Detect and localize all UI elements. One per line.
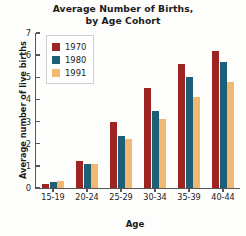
- bar-1991-20-24[interactable]: [91, 164, 98, 188]
- x-axis-tick-label: 35-39: [172, 192, 206, 202]
- y-axis-tick-label: 2: [26, 139, 31, 149]
- x-axis-line: [35, 188, 240, 189]
- x-axis-tick-label: 25-29: [104, 192, 138, 202]
- x-axis-tick-label: 15-19: [36, 192, 70, 202]
- y-axis-tick-label: 1: [26, 161, 31, 171]
- chart-legend: 197019801991: [46, 35, 94, 84]
- bar-group: 30-34: [138, 33, 172, 188]
- y-axis-tick: 5: [26, 72, 36, 82]
- y-axis-tick-label: 6: [26, 50, 31, 60]
- y-axis-tick: 2: [26, 139, 36, 149]
- bar-group: 40-44: [206, 33, 240, 188]
- x-axis-tick-mark: [52, 188, 53, 192]
- legend-item-label: 1980: [65, 56, 86, 64]
- bar-1970-30-34[interactable]: [144, 88, 151, 188]
- legend-item-1970[interactable]: 1970: [52, 40, 86, 53]
- x-axis-title: Age: [30, 219, 240, 229]
- legend-swatch-icon: [52, 69, 60, 77]
- bar-1991-40-44[interactable]: [227, 82, 234, 188]
- chart-title-line-1: Average Number of Births,: [0, 3, 246, 15]
- y-axis-tick-label: 0: [26, 183, 31, 193]
- bar-group: 25-29: [104, 33, 138, 188]
- x-axis-tick-label: 40-44: [206, 192, 240, 202]
- y-axis-tick-label: 4: [26, 94, 31, 104]
- x-axis-tick-label: 20-24: [70, 192, 104, 202]
- legend-item-label: 1970: [65, 43, 86, 51]
- bar-1980-35-39[interactable]: [186, 77, 193, 188]
- bar-group: 35-39: [172, 33, 206, 188]
- bar-1970-20-24[interactable]: [76, 161, 83, 188]
- x-axis-tick-mark: [188, 188, 189, 192]
- x-axis-tick-mark: [222, 188, 223, 192]
- bar-chart: Average Number of Births, by Age Cohort …: [0, 0, 246, 236]
- bar-1980-40-44[interactable]: [220, 62, 227, 188]
- bar-1970-15-19[interactable]: [42, 184, 49, 188]
- bar-1991-35-39[interactable]: [193, 97, 200, 188]
- legend-swatch-icon: [52, 43, 60, 51]
- bar-1991-15-19[interactable]: [57, 181, 64, 188]
- x-axis-tick-mark: [154, 188, 155, 192]
- legend-item-1991[interactable]: 1991: [52, 66, 86, 79]
- chart-title-line-2: by Age Cohort: [0, 15, 246, 27]
- y-axis-tick: 4: [26, 94, 36, 104]
- y-axis-tick: 7: [26, 28, 36, 38]
- x-axis-tick-mark: [120, 188, 121, 192]
- y-axis-tick: 6: [26, 50, 36, 60]
- y-axis-tick: 0: [26, 183, 36, 193]
- bar-1991-30-34[interactable]: [159, 119, 166, 188]
- bar-1980-20-24[interactable]: [84, 164, 91, 188]
- bar-1970-40-44[interactable]: [212, 51, 219, 188]
- bar-1980-25-29[interactable]: [118, 136, 125, 188]
- bar-1970-35-39[interactable]: [178, 64, 185, 188]
- bar-1991-25-29[interactable]: [125, 139, 132, 188]
- x-axis-tick-label: 30-34: [138, 192, 172, 202]
- legend-swatch-icon: [52, 56, 60, 64]
- x-axis-tick-mark: [86, 188, 87, 192]
- bar-1980-30-34[interactable]: [152, 111, 159, 189]
- y-axis-tick: 1: [26, 161, 36, 171]
- legend-item-1980[interactable]: 1980: [52, 53, 86, 66]
- y-axis-tick-label: 3: [26, 117, 31, 127]
- y-axis-tick-label: 5: [26, 72, 31, 82]
- chart-title: Average Number of Births, by Age Cohort: [0, 3, 246, 26]
- y-axis-tick: 3: [26, 117, 36, 127]
- legend-item-label: 1991: [65, 69, 86, 77]
- bar-1970-25-29[interactable]: [110, 122, 117, 188]
- y-axis-tick-label: 7: [26, 28, 31, 38]
